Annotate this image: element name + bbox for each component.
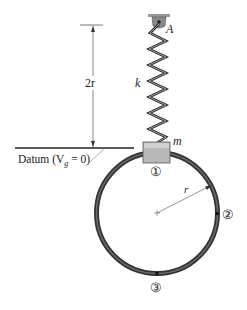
label-m: m xyxy=(173,134,182,148)
position-1-label: ① xyxy=(150,164,162,179)
datum-label: Datum (Vg = 0) xyxy=(18,153,90,168)
pin-a xyxy=(157,20,161,24)
ring-marker-3 xyxy=(156,272,159,275)
dimension-arrow-top xyxy=(91,26,95,32)
datum-leader xyxy=(90,149,104,162)
label-2r: 2r xyxy=(85,76,95,90)
label-r: r xyxy=(184,183,189,195)
position-2-label: ② xyxy=(222,207,234,222)
label-k: k xyxy=(135,76,141,90)
ring-marker-2 xyxy=(216,212,219,215)
diagram-canvas: A k 2r Datum (Vg = 0) r m ① ② ③ xyxy=(0,0,247,310)
position-3-label: ③ xyxy=(150,280,162,295)
label-a: A xyxy=(165,22,174,36)
ceiling-support xyxy=(148,14,170,17)
dimension-arrow-bottom xyxy=(91,141,95,147)
